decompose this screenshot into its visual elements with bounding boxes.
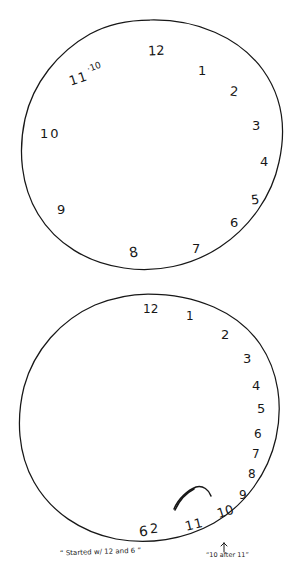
clock-number: 12 — [148, 44, 165, 58]
clock-number: 7 — [252, 448, 260, 460]
clock-number-overwritten: 6 — [138, 524, 148, 539]
clock-number: 10 — [40, 127, 61, 140]
clock-number: 4 — [260, 155, 268, 168]
pointer-arrow-to-hands — [218, 538, 230, 550]
clock-hands — [174, 487, 211, 510]
clock-number: 1 — [186, 310, 194, 322]
clock-number-overwritten: 2 — [150, 522, 159, 536]
clock-number: 3 — [252, 119, 260, 132]
clock-circle-outline — [19, 294, 279, 541]
clock-number: 4 — [252, 379, 260, 392]
examiner-note-started: “ Started w/ 12 and 6 ” — [60, 548, 141, 558]
clock-number: 9 — [57, 203, 65, 216]
clock-number: 6 — [254, 428, 262, 440]
bottom-clock-face — [0, 286, 298, 552]
clock-number: 2 — [221, 328, 229, 341]
examiner-note-time-spoken: “10 after 11” — [206, 552, 249, 559]
clock-number: 12 — [143, 303, 158, 315]
clock-number: 6 — [230, 216, 238, 229]
clock-number: 5 — [257, 402, 265, 415]
clock-number: 9 — [239, 489, 247, 501]
clock-number: 1 — [198, 64, 206, 77]
worksheet-page: 12 1 2 3 4 5 6 7 8 9 10 11 ·10 12 1 2 3 … — [0, 0, 298, 576]
clock-number: 2 — [229, 85, 239, 99]
clock-number: 5 — [250, 193, 260, 207]
clock-number: 3 — [243, 352, 251, 365]
clock-number: 8 — [248, 468, 256, 480]
clock-number: 7 — [192, 242, 200, 255]
